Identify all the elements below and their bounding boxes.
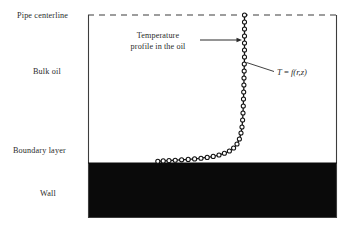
profile-data-point [156,159,160,163]
profile-data-point [241,111,245,115]
profile-data-point [242,76,246,80]
label-boundary-layer: Boundary layer [13,146,66,155]
label-wall: Wall [40,189,56,198]
profile-data-point [217,153,221,157]
profile-data-point [241,104,245,108]
profile-data-point [241,97,245,101]
label-pipe-centerline: Pipe centerline [17,11,68,20]
profile-data-point [242,13,246,17]
label-bulk-oil: Bulk oil [33,67,61,76]
profile-data-point [235,142,239,146]
profile-data-point [242,27,246,31]
profile-annotation-text: Temperature profile in the oil [111,31,205,52]
profile-annotation-line2: profile in the oil [111,42,205,53]
profile-data-point [232,146,236,150]
profile-data-point [242,48,246,52]
profile-data-point [161,159,165,163]
profile-annotation-line1: Temperature [111,31,205,42]
profile-data-point [199,156,203,160]
profile-data-point [222,151,226,155]
wall-region [88,163,337,218]
profile-data-point [211,154,215,158]
equation-label: T = f(r,z) [277,67,307,77]
profile-data-point [227,149,231,153]
equation-rhs: f(r,z) [291,67,307,77]
profile-data-point [242,34,246,38]
profile-data-point [242,83,246,87]
profile-data-point [180,158,184,162]
temperature-profile-figure: Pipe centerline Bulk oil Boundary layer … [0,0,352,230]
profile-data-point [242,55,246,59]
profile-data-point [167,159,171,163]
profile-data-point [173,158,177,162]
profile-data-point [237,137,241,141]
profile-data-point [186,157,190,161]
profile-data-point [241,118,245,122]
profile-data-point [242,41,246,45]
profile-data-point [239,131,243,135]
profile-data-point [242,90,246,94]
profile-data-point [205,155,209,159]
profile-data-point [242,69,246,73]
profile-data-point [242,20,246,24]
profile-data-point [193,157,197,161]
profile-data-point [242,62,246,66]
equation-operator: = [282,67,291,77]
profile-data-point [240,125,244,129]
